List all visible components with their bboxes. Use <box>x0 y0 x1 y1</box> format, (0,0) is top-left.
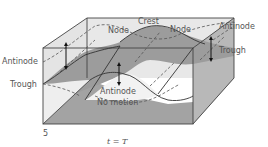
label-antinode-left: Antinode <box>2 57 38 66</box>
label-node-right: Node <box>170 25 191 34</box>
label-trough-left: Trough <box>9 80 37 89</box>
standing-wave-diagram: Node Crest Node Antinode Trough Antinode… <box>0 0 268 147</box>
panel-number: 5 <box>43 129 48 138</box>
label-no-motion: No motion <box>97 98 138 107</box>
caption-time: t = T <box>107 137 128 146</box>
label-crest: Crest <box>138 17 159 26</box>
label-antinode-center: Antinode <box>100 87 136 96</box>
label-trough-right: Trough <box>218 46 246 55</box>
label-node-left: Node <box>108 26 129 35</box>
label-antinode-right: Antinode <box>219 22 255 31</box>
